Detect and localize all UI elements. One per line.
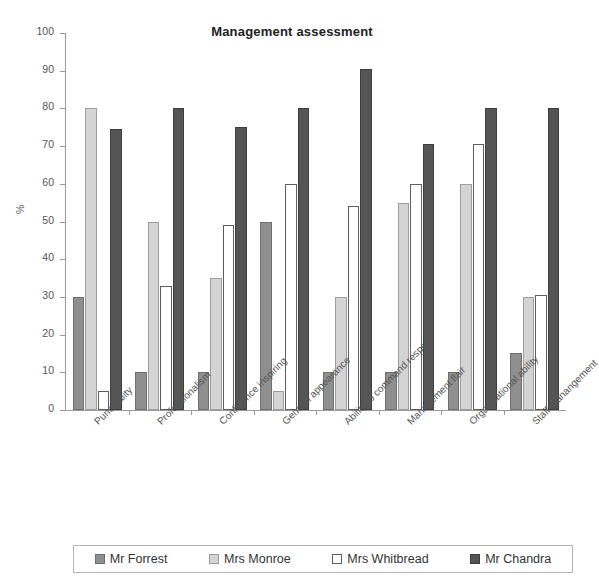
x-axis-tick-mark <box>379 410 380 415</box>
y-axis-tick-label: 50 <box>42 214 54 226</box>
bar <box>85 108 97 410</box>
bar-group <box>316 33 379 410</box>
x-axis-tick-mark <box>504 410 505 415</box>
bar <box>135 372 147 410</box>
y-axis-tick-label: 20 <box>42 327 54 339</box>
y-axis-title: % <box>14 205 26 214</box>
bar-group <box>504 33 567 410</box>
x-axis-tick-mark <box>129 410 130 415</box>
legend-item[interactable]: Mr Chandra <box>470 552 551 566</box>
plot-area <box>66 33 566 410</box>
bar <box>535 295 547 410</box>
y-axis-tick-label: 80 <box>42 100 54 112</box>
bar <box>298 108 310 410</box>
legend-label: Mrs Monroe <box>224 552 291 566</box>
x-axis-tick-mark <box>316 410 317 415</box>
bar-group <box>441 33 504 410</box>
y-axis-tick-label: 30 <box>42 289 54 301</box>
y-axis-tick-label: 70 <box>42 138 54 150</box>
bar <box>173 108 185 410</box>
legend-label: Mr Forrest <box>110 552 168 566</box>
legend-item[interactable]: Mrs Monroe <box>209 552 291 566</box>
y-axis-tick-label: 100 <box>36 25 54 37</box>
y-axis-tick-label: 10 <box>42 364 54 376</box>
bar <box>148 222 160 411</box>
bar <box>548 108 560 410</box>
bar <box>160 286 172 410</box>
y-axis-tick-label: 40 <box>42 251 54 263</box>
legend-swatch-icon <box>470 554 480 564</box>
x-axis-tick-mark <box>191 410 192 415</box>
legend-swatch-icon <box>209 554 219 564</box>
legend-label: Mr Chandra <box>485 552 551 566</box>
y-axis-tick-label: 60 <box>42 176 54 188</box>
bar <box>335 297 347 410</box>
y-axis-tick-label: 90 <box>42 63 54 75</box>
bar <box>73 297 85 410</box>
bar <box>210 278 222 410</box>
bar <box>473 144 485 410</box>
bar <box>360 69 372 410</box>
x-axis-tick-mark <box>254 410 255 415</box>
bar <box>285 184 297 410</box>
bar <box>485 108 497 410</box>
bar-group <box>129 33 192 410</box>
legend-swatch-icon <box>95 554 105 564</box>
x-axis-tick-mark <box>441 410 442 415</box>
bar <box>235 127 247 410</box>
y-axis-tick-label: 0 <box>48 402 54 414</box>
legend-item[interactable]: Mrs Whitbread <box>332 552 428 566</box>
bar-group <box>66 33 129 410</box>
bar-group <box>254 33 317 410</box>
bar <box>223 225 235 410</box>
bar <box>398 203 410 410</box>
bar <box>110 129 122 410</box>
legend-item[interactable]: Mr Forrest <box>95 552 168 566</box>
legend-label: Mrs Whitbread <box>347 552 428 566</box>
bar <box>348 206 360 410</box>
bar <box>273 391 285 410</box>
legend-swatch-icon <box>332 554 342 564</box>
chart-legend: Mr ForrestMrs MonroeMrs WhitbreadMr Chan… <box>73 545 573 573</box>
bar <box>410 184 422 410</box>
bar <box>423 144 435 410</box>
bar-group <box>191 33 254 410</box>
